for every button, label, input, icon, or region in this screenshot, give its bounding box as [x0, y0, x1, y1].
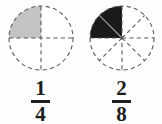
fraction-label-one-fourth: 1 4 [0, 78, 81, 124]
fraction-figure: 1 4 [0, 0, 162, 124]
fraction-stack: 1 4 [31, 78, 50, 124]
denominator: 4 [31, 104, 50, 124]
fraction-model-one-fourth: 1 4 [0, 0, 81, 124]
fraction-label-two-eighths: 2 8 [81, 78, 162, 124]
denominator: 8 [112, 104, 131, 124]
pie-chart-two-eighths [89, 3, 155, 73]
circle-model-one-fourth [8, 3, 74, 73]
numerator: 1 [31, 78, 50, 99]
numerator: 2 [112, 78, 131, 99]
pie-chart-one-fourth [8, 3, 74, 73]
circle-model-two-eighths [89, 3, 155, 73]
fraction-stack: 2 8 [112, 78, 131, 124]
fraction-model-two-eighths: 2 8 [81, 0, 162, 124]
